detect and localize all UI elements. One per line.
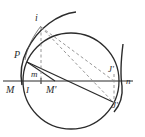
- label-point-n: n: [126, 77, 131, 86]
- label-point-I: I: [26, 86, 29, 95]
- geometry-figure: i P m M I M' J' n J': [0, 0, 145, 137]
- label-point-M: M: [6, 85, 14, 95]
- label-point-m: m: [31, 70, 38, 79]
- chord-P-to-Jprime: [27, 62, 113, 102]
- label-point-P: P: [14, 50, 20, 60]
- label-point-i: i: [35, 13, 38, 23]
- figure-canvas: [0, 0, 145, 137]
- outer-arc-companion: [25, 26, 41, 60]
- label-point-M-prime: M': [46, 85, 56, 95]
- label-point-J-prime-upper: J': [108, 65, 114, 74]
- outer-arc-upper: [21, 12, 76, 85]
- label-point-J-prime-lower: J': [112, 101, 118, 110]
